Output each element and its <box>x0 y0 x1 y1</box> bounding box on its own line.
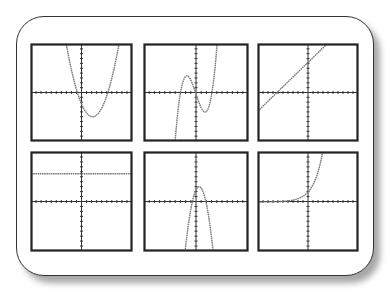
graph-panel-exponential <box>258 152 358 251</box>
graph-panel-parabola-like <box>31 44 132 141</box>
graph-panel-downward-parabola <box>144 152 248 251</box>
graph-panel-line <box>258 44 358 141</box>
graph-panel-horizontal-line <box>31 152 132 251</box>
graph-panel-cubic <box>144 44 248 141</box>
